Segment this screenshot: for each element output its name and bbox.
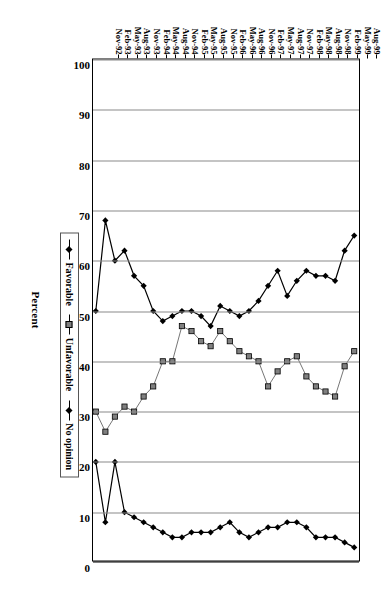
category-tick-label: Feb-99: [353, 29, 363, 54]
category-tick-label: May-98: [324, 26, 334, 54]
category-tick-mark: [300, 54, 301, 58]
category-tick-mark: [290, 54, 291, 58]
category-tick-mark: [252, 54, 253, 58]
category-tick-mark: [357, 54, 358, 58]
category-tick-label: Nov-93: [152, 28, 162, 54]
data-point: [169, 534, 175, 540]
data-point: [246, 353, 251, 358]
data-point: [218, 328, 223, 333]
category-tick-label: Nov-94: [190, 28, 200, 54]
value-axis-title: Percent: [30, 58, 42, 561]
category-tick-label: Feb-98: [315, 29, 325, 54]
data-point: [304, 373, 309, 378]
series-unfavorable: [93, 323, 357, 434]
category-tick-label: Feb-95: [200, 29, 210, 54]
category-tick-mark: [328, 54, 329, 58]
gridline-100: [93, 59, 359, 60]
data-point: [333, 393, 338, 398]
value-tick-label: 90: [79, 108, 90, 120]
value-tick-label: 70: [79, 209, 90, 221]
category-tick-label: May-95: [210, 26, 220, 54]
category-tick-label: Nov-98: [344, 28, 354, 54]
gridline-30: [93, 411, 359, 412]
category-tick-mark: [194, 54, 195, 58]
value-tick-label: 30: [79, 410, 90, 422]
data-point: [189, 328, 194, 333]
data-point: [275, 368, 280, 373]
category-tick-mark: [223, 54, 224, 58]
category-tick-label: Aug-98: [334, 28, 344, 54]
category-tick-label: Feb-94: [162, 29, 172, 54]
data-point: [237, 348, 242, 353]
diamond-marker-icon: [69, 400, 70, 420]
data-point: [208, 529, 214, 535]
category-tick-label: May-96: [248, 26, 258, 54]
category-tick-mark: [338, 54, 339, 58]
data-point: [179, 534, 185, 540]
gridline-10: [93, 512, 359, 513]
category-tick-mark: [166, 54, 167, 58]
data-point: [102, 519, 108, 525]
gridline-40: [93, 361, 359, 362]
category-tick-label: Aug-93: [143, 28, 153, 54]
data-point: [151, 383, 156, 388]
category-tick-label: May-93: [133, 26, 143, 54]
category-tick-label: Aug-94: [181, 28, 191, 54]
category-tick-mark: [261, 54, 262, 58]
category-tick-mark: [127, 54, 128, 58]
plot-area: [92, 58, 360, 561]
legend-item-no-opinion: No opinion: [64, 400, 75, 470]
category-tick-mark: [281, 54, 282, 58]
category-tick-label: Feb-93: [123, 29, 133, 54]
category-tick-label: May-94: [171, 26, 181, 54]
category-tick-mark: [137, 54, 138, 58]
data-point: [332, 277, 338, 283]
gridline-90: [93, 109, 359, 110]
data-point: [208, 343, 213, 348]
category-tick-label: Nov-96: [267, 28, 277, 54]
category-tick-mark: [185, 54, 186, 58]
category-tick-mark: [118, 54, 119, 58]
legend-label: Unfavorable: [64, 337, 75, 390]
category-tick-label: Aug-97: [296, 28, 306, 54]
category-axis: Nov-92Feb-93May-93Aug-93Nov-93Feb-94May-…: [114, 0, 382, 58]
value-tick-label: 80: [79, 159, 90, 171]
data-point: [246, 534, 252, 540]
data-point: [352, 348, 357, 353]
data-point: [351, 544, 357, 550]
data-point: [236, 312, 242, 318]
category-tick-mark: [204, 54, 205, 58]
category-tick-mark: [175, 54, 176, 58]
data-point: [323, 388, 328, 393]
chart-page: Nov-92Feb-93May-93Aug-93Nov-93Feb-94May-…: [0, 0, 382, 597]
data-point: [313, 383, 318, 388]
gridline-70: [93, 210, 359, 211]
category-tick-label: Feb-97: [277, 29, 287, 54]
gridline-80: [93, 160, 359, 161]
data-point: [141, 393, 146, 398]
category-tick-label: May-99: [363, 26, 373, 54]
category-tick-mark: [367, 54, 368, 58]
rotated-chart-figure: Nov-92Feb-93May-93Aug-93Nov-93Feb-94May-…: [0, 0, 382, 597]
data-point: [266, 383, 271, 388]
category-tick-label: Nov-95: [229, 28, 239, 54]
data-point: [227, 338, 232, 343]
category-tick-mark: [348, 54, 349, 58]
data-point: [275, 524, 281, 530]
value-tick-label: 60: [79, 259, 90, 271]
data-point: [322, 534, 328, 540]
category-tick-label: May-97: [286, 26, 296, 54]
category-tick-mark: [271, 54, 272, 58]
category-tick-mark: [214, 54, 215, 58]
value-tick-label: 40: [79, 360, 90, 372]
category-tick-mark: [376, 54, 377, 58]
legend-label: Favorable: [64, 262, 75, 305]
gridline-60: [93, 260, 359, 261]
category-tick-mark: [242, 54, 243, 58]
gridline-20: [93, 461, 359, 462]
category-tick-label: Aug-96: [257, 28, 267, 54]
category-tick-mark: [156, 54, 157, 58]
category-tick-label: Feb-96: [238, 29, 248, 54]
data-point: [342, 363, 347, 368]
data-point: [103, 429, 108, 434]
